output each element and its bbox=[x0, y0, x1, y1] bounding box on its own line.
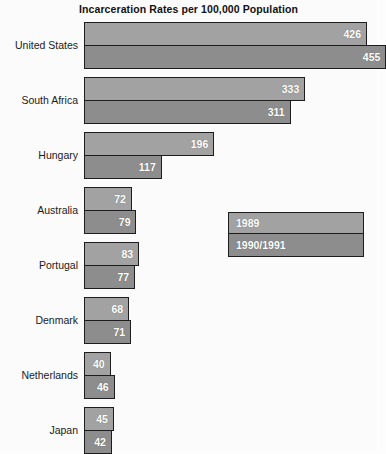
category-label: Denmark bbox=[0, 314, 78, 326]
bar-1990-1991: 46 bbox=[84, 375, 115, 399]
bar-value-label: 68 bbox=[111, 303, 123, 315]
bar-1989: 40 bbox=[84, 352, 111, 376]
chart-title: Incarceration Rates per 100,000 Populati… bbox=[0, 3, 377, 15]
legend-label-1989: 1989 bbox=[236, 217, 259, 229]
bar-value-label: 79 bbox=[119, 216, 131, 228]
bar-1990-1991: 42 bbox=[84, 430, 112, 454]
category-label: Netherlands bbox=[0, 369, 78, 381]
bar-value-label: 45 bbox=[96, 413, 108, 425]
bar-value-label: 42 bbox=[94, 436, 106, 448]
bar-value-label: 117 bbox=[139, 161, 156, 173]
chart-legend: 1989 1990/1991 bbox=[228, 212, 364, 257]
category-label: Australia bbox=[0, 204, 78, 216]
bar-1990-1991: 455 bbox=[84, 45, 386, 69]
bar-1990-1991: 79 bbox=[84, 210, 136, 234]
bar-value-label: 426 bbox=[344, 28, 362, 40]
category-label: Hungary bbox=[0, 149, 78, 161]
category-label: Portugal bbox=[0, 259, 78, 271]
bar-1990-1991: 71 bbox=[84, 320, 131, 344]
bar-value-label: 83 bbox=[121, 248, 133, 260]
bar-value-label: 46 bbox=[97, 381, 109, 393]
bar-value-label: 455 bbox=[363, 51, 381, 63]
bar-value-label: 40 bbox=[93, 358, 105, 370]
bar-value-label: 333 bbox=[282, 83, 300, 95]
bar-1989: 333 bbox=[84, 77, 305, 101]
bar-value-label: 71 bbox=[113, 326, 125, 338]
category-label: South Africa bbox=[0, 94, 78, 106]
bar-1990-1991: 311 bbox=[84, 100, 291, 124]
bar-value-label: 311 bbox=[268, 106, 285, 118]
bar-value-label: 77 bbox=[117, 271, 129, 283]
category-label: United States bbox=[0, 39, 78, 51]
bar-1990-1991: 117 bbox=[84, 155, 162, 179]
bar-value-label: 196 bbox=[191, 138, 209, 150]
bar-value-label: 72 bbox=[114, 193, 126, 205]
legend-item-1989: 1989 bbox=[229, 213, 363, 234]
category-label: Japan bbox=[0, 424, 78, 436]
bar-1990-1991: 77 bbox=[84, 265, 135, 289]
bar-1989: 72 bbox=[84, 187, 132, 211]
bar-1989: 83 bbox=[84, 242, 139, 266]
bar-1989: 426 bbox=[84, 22, 367, 46]
bar-1989: 68 bbox=[84, 297, 129, 321]
bar-1989: 196 bbox=[84, 132, 214, 156]
legend-item-1990-1991: 1990/1991 bbox=[229, 234, 363, 256]
legend-label-1990-1991: 1990/1991 bbox=[236, 239, 286, 251]
bar-1989: 45 bbox=[84, 407, 114, 431]
